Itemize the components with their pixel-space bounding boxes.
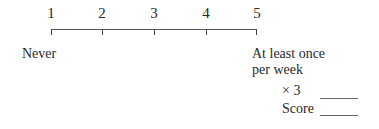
high-anchor-label-line1: At least once — [252, 46, 325, 62]
low-anchor-label: Never — [22, 46, 56, 62]
scale-number-1: 1 — [41, 5, 61, 21]
scale-tick-3[interactable] — [154, 29, 155, 35]
scale-number-3: 3 — [144, 5, 164, 21]
multiplier-label: × 3 — [282, 83, 300, 99]
scale-tick-2[interactable] — [102, 29, 103, 35]
scale-number-4: 4 — [196, 5, 216, 21]
scale-tick-1[interactable] — [51, 29, 52, 35]
scale-number-2: 2 — [92, 5, 112, 21]
score-blank-field[interactable] — [320, 115, 358, 116]
scale-number-5: 5 — [247, 5, 267, 21]
multiplier-blank-field[interactable] — [320, 98, 358, 99]
scale-tick-5[interactable] — [256, 29, 257, 35]
score-label: Score — [282, 101, 314, 117]
high-anchor-label-line2: per week — [252, 62, 303, 78]
scale-tick-4[interactable] — [206, 29, 207, 35]
